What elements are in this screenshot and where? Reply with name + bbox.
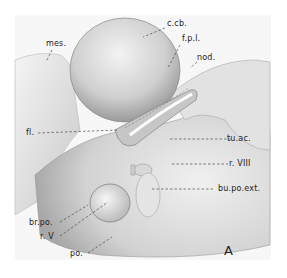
- label-r-v: r. V: [40, 233, 54, 241]
- label-po: po.: [70, 250, 83, 258]
- panel-letter: A: [224, 243, 233, 258]
- label-r-viii: r. VIII: [229, 160, 251, 168]
- label-c-cb: c.cb.: [167, 20, 187, 28]
- label-nod: nod.: [197, 54, 215, 62]
- label-br-po: br.po.: [29, 219, 53, 227]
- label-tu-ac: tu.ac.: [227, 135, 251, 143]
- trigeminal-root-disc: [90, 184, 130, 222]
- label-f-p-l: f.p.l.: [182, 35, 200, 43]
- label-mes: mes.: [46, 40, 66, 48]
- label-bu-po-ext: bu.po.ext.: [218, 185, 260, 193]
- label-fl: fl.: [26, 129, 34, 137]
